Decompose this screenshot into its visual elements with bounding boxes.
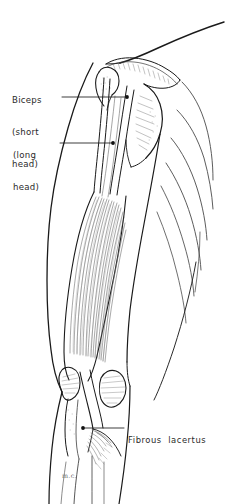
- leader-dot-biceps-short-head: [125, 95, 129, 99]
- label-line-1: Fibrous lacertus: [128, 435, 206, 446]
- artist-signature: m.c.: [62, 472, 77, 480]
- leader-dot-biceps-long-head: [111, 141, 115, 145]
- leader-dot-fibrous-lacertus: [81, 426, 85, 430]
- label-biceps-long-head: (long head): [13, 129, 39, 214]
- anatomical-figure: Biceps (short head) (long head) Fibrous …: [0, 0, 225, 504]
- label-fibrous-lacertus: Fibrous lacertus: [128, 414, 206, 467]
- label-line-1: (long: [13, 150, 39, 161]
- label-line-1: Biceps: [12, 95, 42, 106]
- label-line-2: head): [13, 182, 39, 193]
